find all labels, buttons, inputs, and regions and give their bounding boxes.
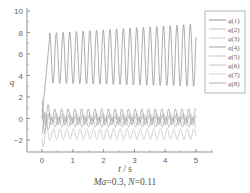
legend-label: q(8): [228, 80, 240, 88]
y-tick-label: 4: [19, 72, 24, 81]
y-tick-label: 10: [14, 7, 23, 16]
figure-caption: Ma=0.3, N=0.11: [0, 177, 250, 187]
legend-label: q(4): [228, 44, 240, 52]
legend-label: q(6): [228, 62, 240, 70]
plot-series: [42, 24, 196, 146]
y-axis-title: q: [10, 77, 15, 87]
y-tick-label: 6: [19, 50, 24, 59]
y-tick-label: −2: [14, 136, 24, 145]
legend-label: q(2): [228, 26, 240, 34]
x-axis-title: t / s: [0, 164, 250, 174]
legend-label: q(3): [228, 35, 240, 43]
y-tick-label: 0: [19, 115, 24, 124]
legend-label: q(5): [228, 53, 240, 61]
legend-label: q(7): [228, 71, 240, 79]
y-tick-label: 2: [19, 93, 24, 102]
legend-label: q(1): [228, 17, 240, 25]
series-line-q1: [42, 24, 196, 118]
series-line-q4: [42, 99, 196, 133]
y-tick-label: 8: [19, 29, 24, 38]
axes: −20246810012345q: [10, 7, 213, 165]
legend: q(1)q(2)q(3)q(4)q(5)q(6)q(7)q(8): [205, 11, 245, 93]
series-line-q6: [42, 125, 196, 147]
